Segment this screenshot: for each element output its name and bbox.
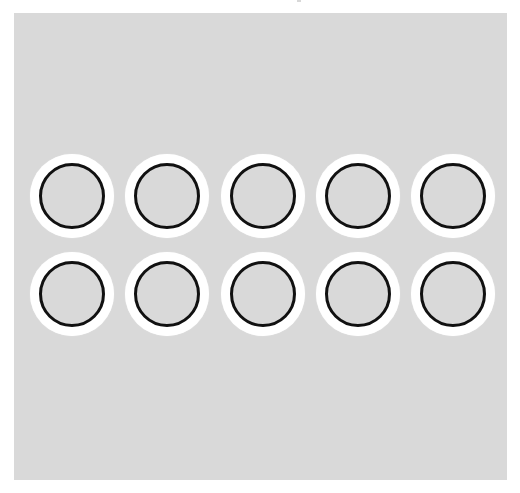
circle-token-r1-c5[interactable] bbox=[411, 154, 495, 238]
circle-outline-icon bbox=[325, 163, 391, 229]
circle-outline-icon bbox=[230, 261, 296, 327]
circle-outline-icon bbox=[420, 163, 486, 229]
circle-token-r2-c5[interactable] bbox=[411, 252, 495, 336]
circle-token-r2-c1[interactable] bbox=[30, 252, 114, 336]
circle-outline-icon bbox=[39, 261, 105, 327]
circle-outline-icon bbox=[325, 261, 391, 327]
circle-outline-icon bbox=[134, 163, 200, 229]
circle-outline-icon bbox=[230, 163, 296, 229]
circle-token-r1-c4[interactable] bbox=[316, 154, 400, 238]
circle-token-r1-c3[interactable] bbox=[221, 154, 305, 238]
circle-outline-icon bbox=[134, 261, 200, 327]
circle-token-r1-c2[interactable] bbox=[125, 154, 209, 238]
circle-token-r2-c3[interactable] bbox=[221, 252, 305, 336]
circle-token-r1-c1[interactable] bbox=[30, 154, 114, 238]
canvas bbox=[0, 0, 520, 493]
circle-token-r2-c2[interactable] bbox=[125, 252, 209, 336]
top-edge-mark bbox=[297, 0, 301, 2]
circle-token-r2-c4[interactable] bbox=[316, 252, 400, 336]
circle-outline-icon bbox=[420, 261, 486, 327]
grey-panel bbox=[14, 13, 507, 480]
circle-outline-icon bbox=[39, 163, 105, 229]
